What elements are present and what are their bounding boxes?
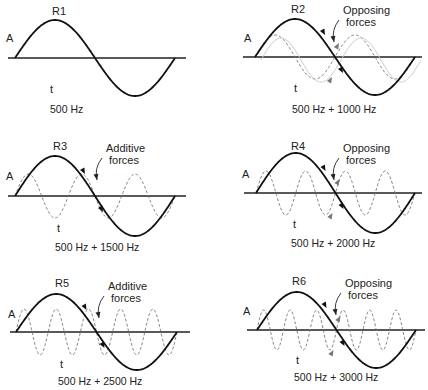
- frequency-caption: 500 Hz + 3000 Hz: [294, 371, 378, 383]
- panel-r3: Additiveforces: [8, 142, 186, 236]
- amplitude-label: A: [8, 308, 16, 320]
- arrowhead-icon: [320, 29, 327, 37]
- arrowhead-icon: [334, 178, 341, 186]
- arrowhead-icon: [81, 304, 88, 312]
- panel-label: R6: [292, 275, 306, 287]
- panel-label: R3: [53, 140, 67, 152]
- frequency-caption: 500 Hz + 2000 Hz: [291, 237, 375, 249]
- panel-r5: Additiveforces: [10, 280, 190, 370]
- annotation-text: Opposingforces: [345, 277, 392, 301]
- panel-r6: Opposingforces: [247, 277, 425, 368]
- panel-r1: [8, 20, 186, 96]
- arrowhead-icon: [321, 302, 328, 310]
- annotation-text: Additiveforces: [108, 280, 147, 304]
- frequency-caption: 500 Hz + 1500 Hz: [55, 241, 139, 253]
- time-label: t: [60, 358, 63, 370]
- amplitude-label: A: [6, 32, 14, 44]
- harmonics-diagram: R1At500 HzOpposingforcesR2At500 Hz + 100…: [0, 0, 428, 390]
- amplitude-label: A: [244, 32, 252, 44]
- time-label: t: [57, 222, 60, 234]
- annotation-text: Opposingforces: [343, 4, 390, 28]
- panel-r4: Opposingforces: [244, 142, 422, 233]
- annotation-text: Additiveforces: [106, 142, 145, 166]
- panel-label: R4: [291, 140, 305, 152]
- panel-label: R2: [291, 3, 305, 15]
- panel-r2: Opposingforces: [243, 4, 422, 95]
- frequency-caption: 500 Hz + 1000 Hz: [292, 103, 376, 115]
- amplitude-label: A: [6, 170, 14, 182]
- arrowhead-icon: [334, 42, 341, 50]
- annotation-text: Opposingforces: [343, 142, 390, 166]
- frequency-caption: 500 Hz: [50, 103, 83, 115]
- panel-label: R5: [55, 277, 69, 289]
- time-label: t: [296, 354, 299, 366]
- frequency-caption: 500 Hz + 2500 Hz: [58, 375, 142, 387]
- time-label: t: [293, 218, 296, 230]
- time-label: t: [50, 83, 53, 95]
- overtone-echo: [261, 38, 421, 82]
- panel-label: R1: [52, 5, 66, 17]
- amplitude-label: A: [243, 305, 251, 317]
- amplitude-label: A: [242, 168, 250, 180]
- arrowhead-icon: [335, 315, 342, 323]
- time-label: t: [294, 82, 297, 94]
